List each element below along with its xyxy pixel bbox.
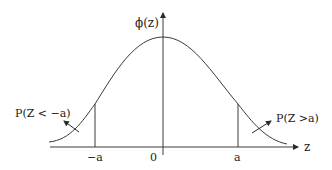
tick-minus-a: −a (87, 151, 103, 164)
x-axis-label: z (304, 140, 310, 154)
y-axis-label: ϕ(z) (135, 16, 159, 30)
left-tail-label: P(Z < −a) (15, 107, 71, 120)
normal-distribution-diagram: ϕ(z) z P(Z < −a) P(Z >a) −a 0 a (0, 0, 332, 170)
tick-zero: 0 (150, 151, 157, 164)
right-tail-label: P(Z >a) (276, 112, 319, 125)
bell-curve (49, 37, 287, 144)
tick-a: a (234, 151, 241, 164)
